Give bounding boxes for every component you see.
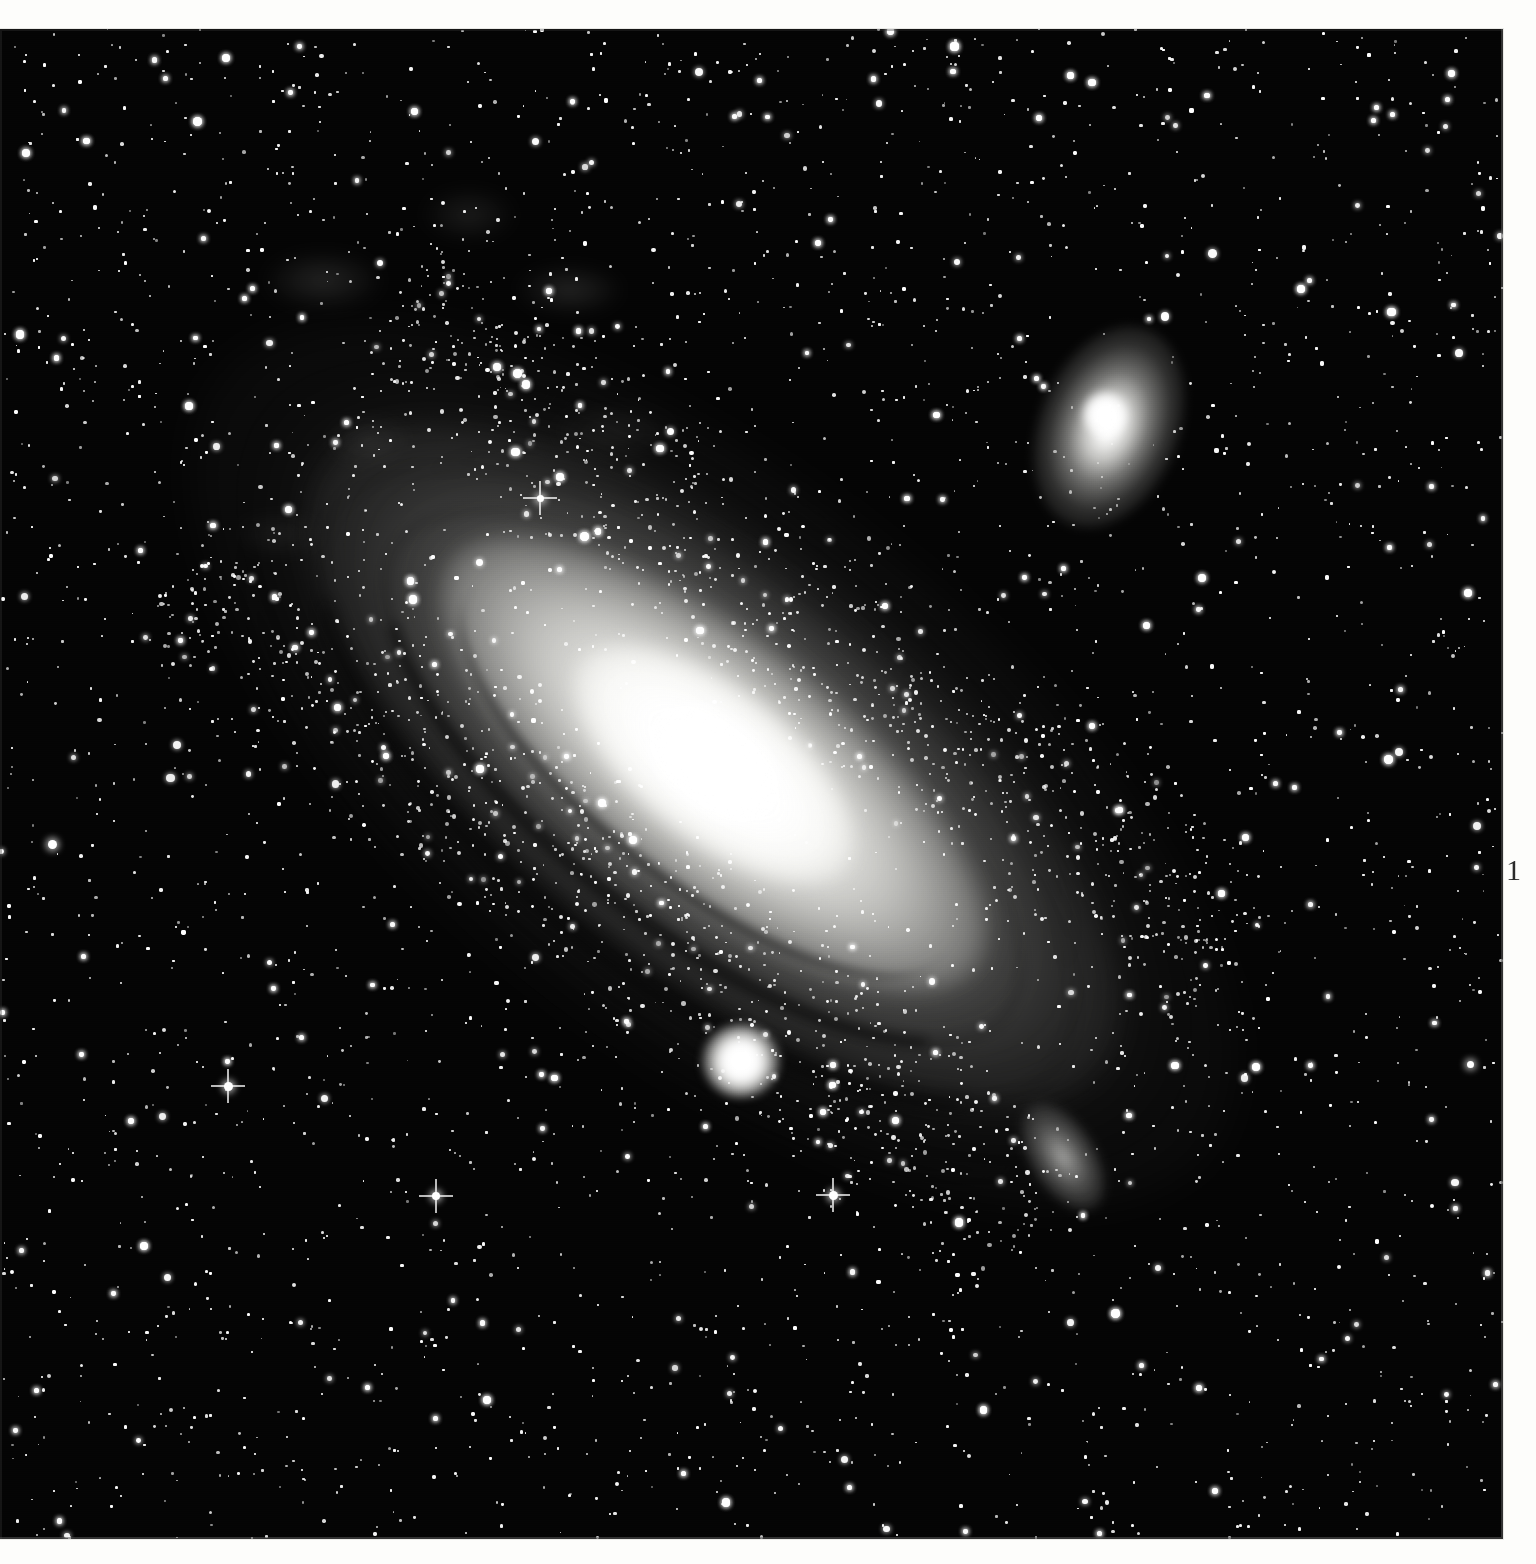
bright-star xyxy=(224,1082,233,1091)
star-diffraction-spike xyxy=(523,481,557,515)
page-canvas: 1 xyxy=(0,0,1536,1564)
bright-star xyxy=(537,495,544,502)
star-diffraction-spike xyxy=(816,1178,850,1212)
page-number: 1 xyxy=(1506,855,1536,885)
star-diffraction-spike xyxy=(419,1179,453,1213)
bright-star-layer xyxy=(0,29,1503,1539)
bright-star xyxy=(829,1191,838,1200)
bright-star xyxy=(1467,1061,1474,1068)
bright-star xyxy=(432,1192,440,1200)
bright-star xyxy=(48,840,57,849)
star-diffraction-spike xyxy=(211,1069,245,1103)
astronomical-photograph xyxy=(0,29,1503,1539)
